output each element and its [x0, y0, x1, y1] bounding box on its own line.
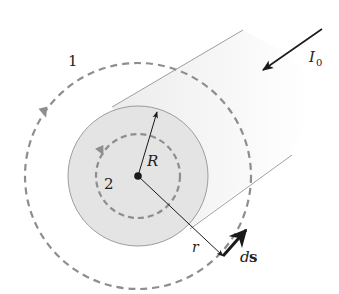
- loop-1-direction-arrow-icon: [39, 106, 51, 119]
- ds-label-s: s: [249, 248, 257, 266]
- ampere-law-diagram: 1 2 R r I 0 d s: [0, 0, 339, 294]
- radius-R-label: R: [146, 152, 158, 170]
- current-label: I: [308, 48, 316, 66]
- radius-r-label: r: [192, 239, 200, 255]
- current-subscript: 0: [316, 57, 322, 68]
- loop-1-label: 1: [68, 52, 78, 70]
- loop-2-label: 2: [104, 175, 114, 193]
